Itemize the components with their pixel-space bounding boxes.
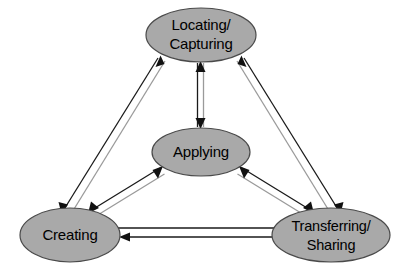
node-locating-capturing-label-line2: Capturing: [169, 35, 232, 52]
node-transferring-sharing-label-line1: Transferring/: [291, 218, 371, 234]
node-locating-capturing[interactable]: Locating/ Capturing: [146, 8, 256, 62]
diagram-canvas: Locating/ Capturing Applying Creating Tr…: [0, 0, 408, 278]
node-applying-label-line1: Applying: [173, 143, 229, 160]
node-applying[interactable]: Applying: [152, 128, 250, 176]
connector-transferring-applying: [238, 166, 315, 217]
connector-locating-applying: [196, 61, 206, 129]
node-creating-label-line1: Creating: [42, 226, 97, 243]
node-creating[interactable]: Creating: [20, 208, 120, 262]
diagram-svg: Locating/ Capturing Applying Creating Tr…: [0, 0, 408, 278]
connector-creating-applying: [88, 166, 165, 217]
connector-transferring-to-creating: [119, 233, 289, 242]
node-transferring-sharing-label-line2: Sharing: [307, 237, 356, 253]
arrow-head-to-locating-left: [156, 56, 165, 68]
node-transferring-sharing[interactable]: Transferring/ Sharing: [272, 208, 390, 262]
connector-transferring-locating: [237, 56, 344, 215]
arrow-head-to-locating-right: [238, 56, 247, 68]
connector-creating-locating: [59, 56, 166, 215]
arrow-head-left-to-creating: [119, 233, 130, 242]
connector-creating-to-transferring: [118, 224, 289, 233]
node-locating-capturing-label-line1: Locating/: [171, 16, 231, 33]
node-transferring-sharing-shape: [272, 208, 390, 262]
